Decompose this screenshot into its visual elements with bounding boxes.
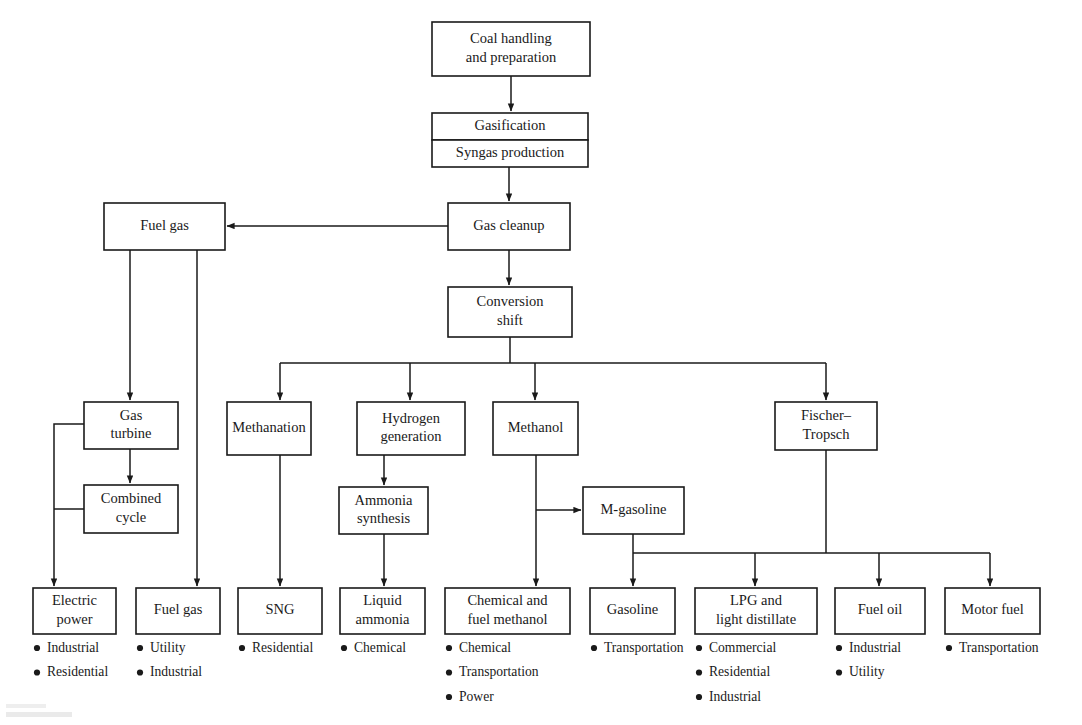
node-label-line: Gas cleanup [473, 217, 544, 233]
terminal-bullet-label: Utility [150, 640, 186, 655]
node-label-line: Hydrogen [382, 410, 441, 426]
node-label-line: Gasification [475, 117, 547, 133]
terminal-bullet-label: Commercial [709, 640, 776, 655]
scan-artifact-layer [6, 704, 72, 717]
terminal-bullet-label: Industrial [47, 640, 99, 655]
terminal-bullet-label: Utility [849, 664, 885, 679]
node-label-line: generation [380, 428, 442, 444]
terminal-layer: ElectricpowerIndustrialResidentialFuel g… [33, 588, 1040, 704]
node-label-line: Syngas production [456, 144, 565, 160]
bullet-dot-icon [34, 645, 40, 651]
terminal-label-line: Fuel gas [154, 601, 203, 617]
terminal-gasoline: GasolineTransportation [590, 588, 684, 655]
terminal-lpg_light_dist: LPG andlight distillateCommercialResiden… [695, 588, 817, 704]
bullet-dot-icon [137, 669, 143, 675]
terminal-bullet-label: Power [459, 689, 494, 704]
bullet-dot-icon [696, 669, 702, 675]
terminal-bullet-label: Residential [709, 664, 770, 679]
bullet-dot-icon [836, 669, 842, 675]
terminal-label-line: Chemical and [467, 592, 548, 608]
bullet-dot-icon [696, 694, 702, 700]
node-label-line: shift [497, 312, 523, 328]
terminal-bullet-label: Residential [252, 640, 313, 655]
terminal-label-line: power [56, 611, 92, 627]
connector-gasturbine-left-tap [54, 424, 84, 586]
terminal-label-line: Gasoline [607, 601, 659, 617]
terminal-bullet-label: Chemical [354, 640, 406, 655]
bullet-dot-icon [696, 645, 702, 651]
terminal-label-line: LPG and [730, 592, 783, 608]
terminal-chem_fuel_meoh: Chemical andfuel methanolChemicalTranspo… [445, 588, 570, 704]
node-hydrogen_gen: Hydrogengeneration [357, 402, 465, 455]
bullet-dot-icon [446, 694, 452, 700]
node-gas_cleanup: Gas cleanup [448, 203, 570, 250]
terminal-bullet-label: Chemical [459, 640, 511, 655]
node-methanation: Methanation [227, 402, 311, 455]
terminal-bullet-label: Transportation [604, 640, 684, 655]
node-label-line: and preparation [466, 49, 557, 65]
terminal-bullet-label: Industrial [150, 664, 202, 679]
node-label-line: Combined [101, 490, 162, 506]
node-ammonia_synth: Ammoniasynthesis [339, 487, 428, 534]
node-label-line: Tropsch [802, 426, 850, 442]
terminal-label-line: Liquid [363, 592, 402, 608]
terminal-label-line: Fuel oil [858, 601, 903, 617]
terminal-bullet-label: Industrial [709, 689, 761, 704]
bullet-dot-icon [341, 645, 347, 651]
node-conversion_shift: Conversionshift [448, 287, 572, 337]
terminal-label-line: SNG [265, 601, 295, 617]
node-label-line: Conversion [477, 293, 545, 309]
node-label-line: Methanol [508, 419, 564, 435]
bullet-dot-icon [836, 645, 842, 651]
terminal-sng: SNGResidential [238, 588, 322, 655]
bullet-dot-icon [591, 645, 597, 651]
node-methanol: Methanol [493, 402, 578, 455]
terminal-electric_power: ElectricpowerIndustrialResidential [33, 588, 116, 679]
terminal-label-line: fuel methanol [467, 611, 547, 627]
bullet-dot-icon [946, 645, 952, 651]
node-syngas: Syngas production [432, 140, 588, 167]
bullet-dot-icon [446, 645, 452, 651]
node-gasification: Gasification [432, 113, 588, 140]
process-flow-diagram: Coal handlingand preparationGasification… [0, 0, 1082, 725]
terminal-bullet-label: Transportation [459, 664, 539, 679]
terminal-bullet-label: Industrial [849, 640, 901, 655]
node-coal_handling: Coal handlingand preparation [432, 22, 590, 76]
terminal-bullet-label: Residential [47, 664, 108, 679]
terminal-fuel_oil: Fuel oilIndustrialUtility [835, 588, 925, 679]
node-label-line: turbine [110, 425, 151, 441]
terminal-bullet-label: Transportation [959, 640, 1039, 655]
node-label-line: Fuel gas [140, 217, 189, 233]
node-fischer_tropsch: Fischer–Tropsch [775, 402, 877, 450]
node-label-line: Methanation [232, 419, 306, 435]
bullet-dot-icon [239, 645, 245, 651]
node-label-line: Coal handling [470, 30, 552, 46]
terminal-liquid_ammonia: LiquidammoniaChemical [340, 588, 425, 655]
terminal-label-line: Motor fuel [961, 601, 1023, 617]
node-label-line: Gas [120, 407, 143, 423]
terminal-fuel_gas_bottom: Fuel gasUtilityIndustrial [136, 588, 220, 679]
terminal-label-line: ammonia [356, 611, 411, 627]
node-label-line: Fischer– [801, 407, 852, 423]
node-m_gasoline: M-gasoline [583, 487, 684, 534]
terminal-label-line: light distillate [716, 611, 796, 627]
bullet-dot-icon [34, 669, 40, 675]
bullet-dot-icon [446, 669, 452, 675]
node-label-line: cycle [116, 509, 147, 525]
node-label-line: synthesis [357, 510, 411, 526]
node-gas_turbine: Gasturbine [84, 402, 178, 449]
terminal-motor_fuel: Motor fuelTransportation [945, 588, 1040, 655]
bullet-dot-icon [137, 645, 143, 651]
node-fuel_gas_top: Fuel gas [104, 203, 225, 250]
node-label-line: Ammonia [355, 492, 414, 508]
node-combined_cycle: Combinedcycle [84, 485, 178, 533]
node-layer: Coal handlingand preparationGasification… [84, 22, 877, 534]
terminal-label-line: Electric [52, 592, 97, 608]
node-label-line: M-gasoline [600, 501, 666, 517]
